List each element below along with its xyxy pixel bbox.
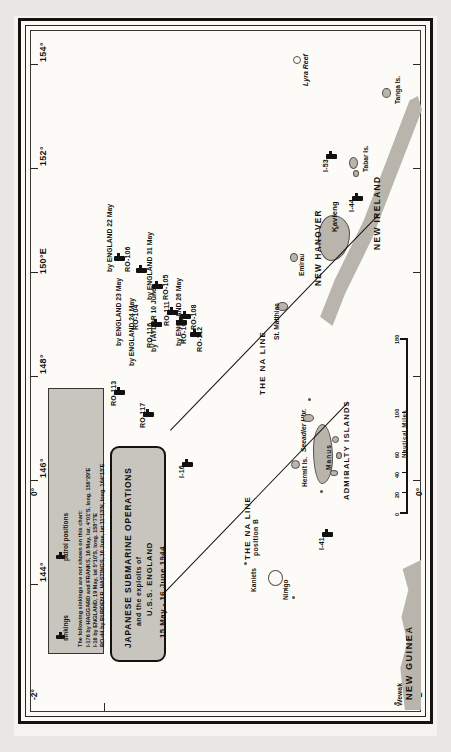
submarine-label-i-41: I-41 (318, 537, 325, 550)
scan-edge-top (0, 0, 451, 16)
lon-tick-148 (31, 376, 38, 377)
lon-tick-146-right (413, 480, 420, 481)
reef-lyra (293, 56, 301, 64)
kavieng-dot (336, 226, 339, 229)
lon-tick-150-right (413, 272, 420, 273)
lon-tick-154 (31, 64, 38, 65)
island-admiralty-d (330, 470, 338, 476)
lon-label-146: 146° (38, 458, 48, 478)
ninigo-dot-b (292, 596, 295, 599)
scale-tick-180 (400, 338, 407, 340)
place-label-emirau: Emirau (298, 254, 305, 276)
island-ninigo (268, 570, 283, 586)
sink-label-ro-111: by TAYLOR 10 June (150, 288, 157, 352)
lon-label-148: 148° (38, 354, 48, 374)
scale-tick-40 (402, 472, 407, 473)
island-admiralty-f (320, 490, 323, 493)
title-box: JAPANESE SUBMARINE OPERATIONS and the ex… (110, 446, 166, 662)
island-admiralty-a (303, 414, 314, 422)
island-tanga (382, 88, 391, 98)
submarine-label-i-53: I-53 (322, 159, 329, 172)
lon-tick-148-right (413, 376, 420, 377)
scan-edge-bottom (0, 736, 451, 752)
lon-tick-152-right (413, 168, 420, 169)
legend-patrol-icon (56, 555, 65, 559)
submarine-label-ro-105: RO-105 (162, 274, 169, 300)
island-admiralty-e (346, 472, 349, 475)
island-kaniets (244, 562, 247, 565)
place-label-new-ireland: NEW IRELAND (372, 176, 382, 251)
wewak-dot (394, 702, 397, 705)
na-line-position-b: position B (252, 519, 259, 556)
scale-tick-0 (400, 512, 407, 514)
legend-patrol-label: patrol positions (62, 513, 69, 561)
scan-edge-right (437, 0, 451, 752)
lon-tick-152 (31, 168, 38, 169)
scale-label-40: 40 (394, 472, 400, 478)
lat-label-zero-right: 0° (414, 488, 424, 496)
scale-label-180: 180 (394, 335, 400, 344)
submarine-label-i-44: I-44 (348, 199, 355, 212)
submarine-label-ro-113: RO-113 (110, 381, 117, 406)
submarine-label-ro-117: RO-117 (139, 403, 146, 428)
legend-note-line-4: RO-44 by BURDEN R. HASTINGS, 16 June, la… (97, 464, 108, 647)
place-label-lyra-reef: Lyra Reef (302, 54, 309, 86)
place-label-hermit: Hermit Is. (301, 457, 308, 487)
island-admiralty-b (332, 436, 339, 443)
lon-tick-154-right (413, 64, 420, 65)
scale-caption: Nautical Miles (400, 410, 407, 458)
island-admiralty-g (308, 398, 311, 401)
na-line-label-a: THE NA LINE (258, 331, 267, 395)
sink-label-ro-104: by ENGLAND 23 May (115, 278, 122, 346)
lon-tick-144 (31, 584, 38, 585)
place-label-wewak: Wewak (396, 683, 403, 706)
lon-label-154: 154° (38, 42, 48, 62)
lon-label-152: 152° (38, 146, 48, 166)
scan-edge-left (0, 0, 14, 752)
title-line-4: 15 May - 16 June 1944 (158, 546, 167, 638)
submarine-label-ro-106: RO-106 (124, 246, 131, 272)
submarine-label-ro-112: RO-112 (196, 327, 203, 352)
ninigo-dot-a (284, 588, 287, 591)
legend-box: sinkings patrol positions The following … (48, 388, 104, 654)
lon-label-150: 150°E (38, 248, 48, 274)
place-label-admiralty-islands: ADMIRALTY ISLANDS (342, 400, 351, 500)
place-label-kaniets: Kaniets (250, 568, 257, 592)
na-line-label-b: THE NA LINE (243, 496, 252, 560)
title-line-3: U.S.S. ENGLAND (145, 542, 154, 616)
legend-sinkings-icon (56, 635, 65, 639)
place-label-tabar: Tabar Is. (362, 145, 369, 172)
lat-label-minus2-left: -2° (29, 689, 39, 700)
title-line-1: JAPANESE SUBMARINE OPERATIONS (123, 467, 133, 648)
lon-tick-146 (31, 480, 38, 481)
island-admiralty-c (336, 452, 342, 459)
lon-label-144: 144° (38, 562, 48, 582)
submarine-label-ro-107: RO-107 (180, 318, 187, 344)
lon-tick-150 (31, 272, 38, 273)
scale-label-0: 0 (394, 513, 400, 516)
place-label-tanga: Tanga Is. (394, 76, 401, 104)
island-emirau (290, 253, 298, 262)
submarine-label-ro-111: RO-111 (163, 301, 170, 326)
place-label-manus: Manus (325, 444, 332, 470)
submarine-label-i-16: I-16 (178, 465, 185, 478)
map-page: 154° 152° 150°E 148° 146° 144° -2° -2° 0… (0, 0, 451, 752)
lat-label-zero-left: 0° (29, 488, 39, 496)
scale-tick-20 (402, 492, 407, 493)
island-tabar-a (349, 157, 358, 169)
place-label-new-guinea: NEW GUINEA (404, 626, 414, 701)
scale-label-20: 20 (394, 492, 400, 498)
sink-label-ro-106: by ENGLAND 22 May (106, 204, 113, 272)
title-line-2: and the exploits of (135, 557, 142, 626)
island-tabar-b (353, 170, 359, 177)
lat-tick-minus2-a (104, 703, 105, 711)
sink-label-ro-116: by ENGLAND 24 May (128, 298, 135, 366)
